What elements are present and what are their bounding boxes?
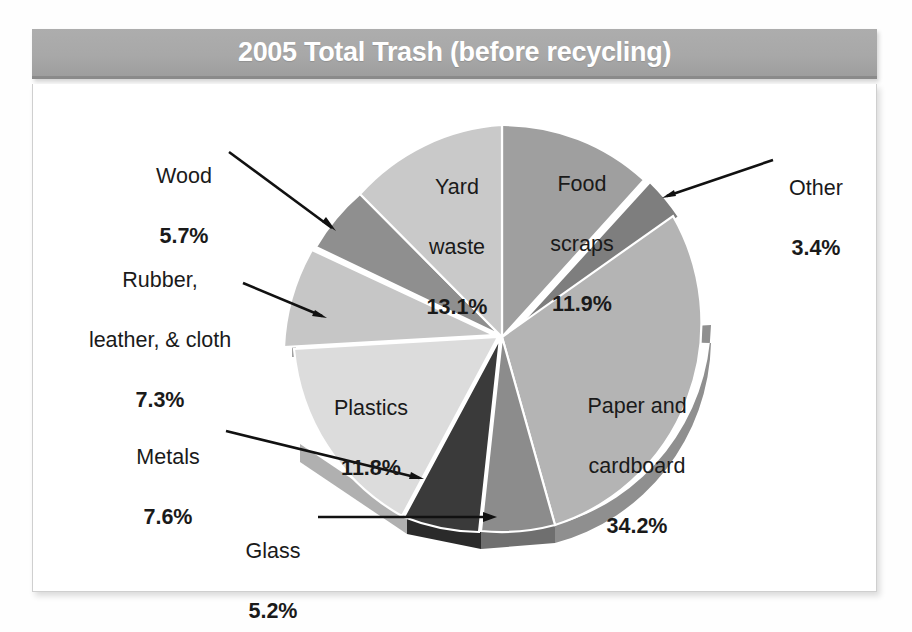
label-plastics-name: Plastics bbox=[311, 396, 431, 420]
chart-title-bar: 2005 Total Trash (before recycling) bbox=[32, 29, 877, 79]
label-yard-waste-name-line2: waste bbox=[399, 235, 515, 259]
label-plastics: Plastics 11.8% bbox=[311, 360, 431, 516]
label-paper-pct: 34.2% bbox=[553, 514, 721, 538]
label-food-scraps-pct: 11.9% bbox=[521, 292, 643, 316]
label-yard-waste: Yard waste 13.1% bbox=[399, 139, 515, 354]
label-paper-name-line2: cardboard bbox=[553, 454, 721, 478]
label-rubber-name-line1: Rubber, bbox=[74, 268, 246, 292]
label-yard-waste-pct: 13.1% bbox=[399, 295, 515, 319]
label-metals-name: Metals bbox=[112, 445, 224, 469]
label-paper-name-line1: Paper and bbox=[553, 394, 721, 418]
label-metals-pct: 7.6% bbox=[112, 505, 224, 529]
label-rubber-name-line2: leather, & cloth bbox=[74, 328, 246, 352]
label-wood-name: Wood bbox=[128, 164, 240, 188]
label-other-name: Other bbox=[766, 176, 866, 200]
label-metals: Metals 7.6% bbox=[112, 409, 224, 565]
label-plastics-pct: 11.8% bbox=[311, 456, 431, 480]
label-yard-waste-name-line1: Yard bbox=[399, 175, 515, 199]
label-food-scraps-name-line2: scraps bbox=[521, 232, 643, 256]
page-title: 2005 Total Trash (before recycling) bbox=[238, 37, 671, 68]
label-food-scraps: Food scraps 11.9% bbox=[521, 136, 643, 351]
label-other: Other 3.4% bbox=[766, 140, 866, 296]
label-glass-name: Glass bbox=[230, 539, 316, 563]
label-glass: Glass 5.2% bbox=[230, 503, 316, 632]
figure-container: 2005 Total Trash (before recycling) bbox=[0, 0, 912, 632]
label-paper-cardboard: Paper and cardboard 34.2% bbox=[553, 358, 721, 573]
label-other-pct: 3.4% bbox=[766, 236, 866, 260]
label-food-scraps-name-line1: Food bbox=[521, 172, 643, 196]
label-glass-pct: 5.2% bbox=[230, 599, 316, 623]
